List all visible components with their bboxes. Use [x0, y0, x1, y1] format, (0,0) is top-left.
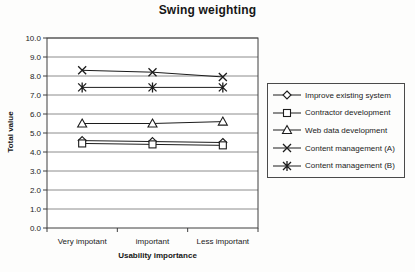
legend-item: Content management (B): [272, 157, 404, 174]
legend-label: Improve existing system: [305, 91, 391, 100]
diamond-legend-icon: [272, 89, 302, 101]
star-legend-icon: [272, 160, 302, 172]
x-tick-label: Less important: [197, 237, 250, 246]
y-tick-label: 2.0: [30, 186, 42, 195]
y-tick-label: 8.0: [30, 72, 42, 81]
y-tick-label: 7.0: [30, 91, 42, 100]
x-tick-label: Very impotant: [58, 237, 108, 246]
y-tick-label: 9.0: [30, 53, 42, 62]
y-tick-label: 3.0: [30, 167, 42, 176]
square-legend-icon: [272, 107, 302, 119]
square-marker-icon: [149, 141, 156, 148]
legend: Improve existing systemContractor develo…: [267, 83, 405, 178]
x-axis-title: Usability importance: [50, 251, 265, 260]
x-legend-icon: [272, 142, 302, 154]
y-tick-label: 6.0: [30, 110, 42, 119]
y-tick-label: 4.0: [30, 148, 42, 157]
x-tick-label: important: [136, 237, 170, 246]
y-tick-label: 5.0: [30, 129, 42, 138]
legend-label: Content management (A): [305, 144, 395, 153]
square-marker-icon: [284, 109, 291, 116]
y-tick-label: 10.0: [25, 34, 41, 43]
legend-label: Web data development: [305, 126, 387, 135]
triangle-legend-icon: [272, 124, 302, 136]
square-marker-icon: [79, 140, 86, 147]
y-axis-title: Total value: [6, 111, 15, 152]
legend-item: Improve existing system: [272, 87, 404, 104]
square-marker-icon: [219, 142, 226, 149]
swing-weighting-chart: Swing weighting 0.01.02.03.04.05.06.07.0…: [0, 0, 415, 272]
diamond-marker-icon: [283, 91, 291, 99]
legend-label: Content management (B): [305, 161, 395, 170]
legend-item: Contractor development: [272, 104, 404, 121]
legend-item: Web data development: [272, 122, 404, 139]
legend-item: Content management (A): [272, 140, 404, 157]
y-tick-label: 1.0: [30, 205, 42, 214]
legend-label: Contractor development: [305, 108, 390, 117]
y-tick-label: 0.0: [30, 224, 42, 233]
